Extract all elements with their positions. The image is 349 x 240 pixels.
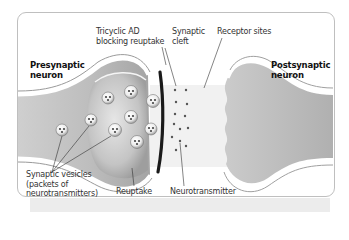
presynaptic-label: Presynaptic neuron bbox=[30, 60, 84, 80]
vesicles-label-line2: (packets of bbox=[26, 180, 98, 190]
presynaptic-label-line1: Presynaptic bbox=[30, 60, 84, 70]
presynaptic-label-line2: neuron bbox=[30, 70, 84, 80]
reuptake-label: Reuptake bbox=[116, 187, 152, 197]
neurotransmitter-label: Neurotransmitter bbox=[170, 187, 236, 197]
cleft-label: Synaptic cleft bbox=[172, 27, 205, 46]
vesicles-label: Synaptic vesicles (packets of neurotrans… bbox=[26, 170, 98, 199]
receptor-label: Receptor sites bbox=[217, 27, 271, 37]
tricyclic-label-line1: Tricyclic AD bbox=[96, 27, 164, 37]
cleft-label-line2: cleft bbox=[172, 37, 205, 47]
cleft-label-line1: Synaptic bbox=[172, 27, 205, 37]
vesicles-label-line3: neurotransmitters) bbox=[26, 189, 98, 199]
postsynaptic-label-line1: Postsynaptic bbox=[271, 60, 330, 70]
tricyclic-label-line2: blocking reuptake bbox=[96, 37, 164, 47]
postsynaptic-label: Postsynaptic neuron bbox=[271, 60, 330, 80]
vesicles-label-line1: Synaptic vesicles bbox=[26, 170, 98, 180]
tricyclic-label: Tricyclic AD blocking reuptake bbox=[96, 27, 164, 46]
postsynaptic-label-line2: neuron bbox=[271, 70, 330, 80]
